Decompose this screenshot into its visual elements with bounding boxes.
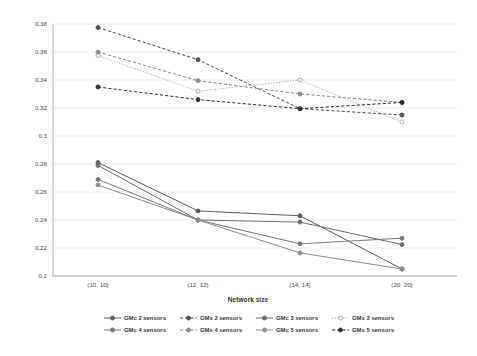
legend-item-gmc-2-sensors[interactable]: GMc 2 sensors xyxy=(104,315,167,321)
legend-label: GMc 4 sensors xyxy=(124,327,167,333)
data-point xyxy=(96,85,100,89)
data-point xyxy=(298,220,302,224)
data-series-layer xyxy=(96,26,404,272)
y-tick-label: 0.24 xyxy=(35,216,48,223)
data-point xyxy=(298,242,302,246)
legend-marker xyxy=(187,328,191,332)
data-point xyxy=(196,79,200,83)
x-axis-tick-labels: (10, 10)(12, 12)(14, 14)(20, 20) xyxy=(87,281,412,288)
chart-container: 0.380.360.340.320.30.280.260.240.220.2 (… xyxy=(0,0,477,356)
series-gms-2-sensors xyxy=(96,26,404,118)
data-point xyxy=(96,177,100,181)
legend-item-gmc-4-sensors[interactable]: GMc 4 sensors xyxy=(104,327,167,333)
y-tick-label: 0.32 xyxy=(35,104,48,111)
legend-item-gmc-3-sensors[interactable]: GMc 3 sensors xyxy=(256,315,319,321)
legend-item-gmc-5-sensors[interactable]: GMc 5 sensors xyxy=(256,327,319,333)
data-point xyxy=(96,163,100,167)
data-point xyxy=(400,243,404,247)
legend-item-gms-2-sensors[interactable]: GMs 2 sensors xyxy=(180,315,243,321)
legend-marker xyxy=(339,316,343,320)
legend-marker xyxy=(263,316,267,320)
x-tick-label: (12, 12) xyxy=(187,281,208,288)
legend-item-gms-4-sensors[interactable]: GMs 4 sensors xyxy=(180,327,243,333)
legend-marker xyxy=(187,316,191,320)
series-gms-4-sensors xyxy=(96,50,404,104)
legend-label: GMs 3 sensors xyxy=(352,315,395,321)
y-tick-label: 0.26 xyxy=(35,188,48,195)
series-gms-3-sensors xyxy=(96,54,404,125)
y-tick-label: 0.28 xyxy=(35,160,48,167)
legend-label: GMc 2 sensors xyxy=(124,315,167,321)
y-tick-label: 0.2 xyxy=(38,272,47,279)
legend-item-gms-3-sensors[interactable]: GMs 3 sensors xyxy=(332,315,395,321)
data-point xyxy=(196,58,200,62)
legend-label: GMs 5 sensors xyxy=(352,327,395,333)
x-tick-label: (20, 20) xyxy=(391,281,412,288)
data-point xyxy=(400,113,404,117)
line-chart: 0.380.360.340.320.30.280.260.240.220.2 (… xyxy=(0,0,477,356)
y-tick-label: 0.34 xyxy=(35,76,48,83)
y-tick-label: 0.36 xyxy=(35,48,48,55)
data-point xyxy=(196,98,200,102)
data-point xyxy=(298,107,302,111)
data-point xyxy=(196,218,200,222)
legend-marker xyxy=(339,328,343,332)
legend-item-gms-5-sensors[interactable]: GMs 5 sensors xyxy=(332,327,395,333)
chart-legend: GMc 2 sensorsGMs 2 sensorsGMc 3 sensorsG… xyxy=(104,315,395,333)
series-gmc-3-sensors xyxy=(96,163,404,246)
y-tick-label: 0.38 xyxy=(35,20,48,27)
data-point xyxy=(400,236,404,240)
data-point xyxy=(96,50,100,54)
data-point xyxy=(196,89,200,93)
data-point xyxy=(96,26,100,30)
series-line xyxy=(98,52,402,102)
x-tick-label: (10, 10) xyxy=(87,281,108,288)
legend-marker xyxy=(111,316,115,320)
data-point xyxy=(298,251,302,255)
y-tick-label: 0.22 xyxy=(35,244,48,251)
legend-label: GMc 5 sensors xyxy=(276,327,319,333)
data-point xyxy=(400,267,404,271)
y-axis-tick-labels: 0.380.360.340.320.30.280.260.240.220.2 xyxy=(35,20,48,279)
data-point xyxy=(400,100,404,104)
legend-marker xyxy=(111,328,115,332)
series-gmc-2-sensors xyxy=(96,161,404,271)
legend-label: GMc 3 sensors xyxy=(276,315,319,321)
legend-label: GMs 4 sensors xyxy=(200,327,243,333)
x-tick-label: (14, 14) xyxy=(289,281,310,288)
series-gms-5-sensors xyxy=(96,85,404,111)
data-point xyxy=(298,214,302,218)
series-line xyxy=(98,87,402,109)
x-axis-title: Network size xyxy=(228,296,269,303)
series-line xyxy=(98,163,402,269)
legend-label: GMs 2 sensors xyxy=(200,315,243,321)
data-point xyxy=(298,78,302,82)
legend-marker xyxy=(263,328,267,332)
series-gmc-5-sensors xyxy=(96,183,404,271)
series-gmc-4-sensors xyxy=(96,177,404,245)
data-point xyxy=(196,209,200,213)
data-point xyxy=(400,120,404,124)
data-point xyxy=(298,92,302,96)
y-tick-label: 0.3 xyxy=(38,132,47,139)
data-point xyxy=(96,183,100,187)
